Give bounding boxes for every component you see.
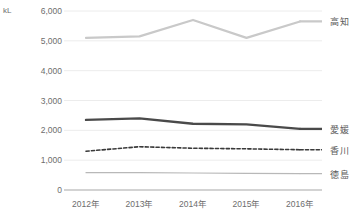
series-label: 高知 [330, 15, 350, 28]
series-label: 愛媛 [330, 122, 350, 135]
series-label-group: 高知愛媛香川徳島 [0, 0, 359, 222]
series-label: 徳島 [330, 167, 350, 180]
line-chart: kL 01,0002,0003,0004,0005,0006,000 2012年… [0, 0, 359, 222]
series-label: 香川 [330, 143, 350, 156]
